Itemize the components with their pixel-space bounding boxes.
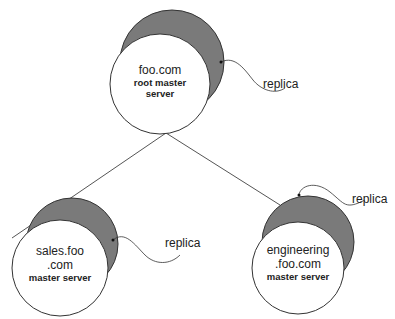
node-label-sales: sales.foo .com master server	[10, 245, 110, 284]
node-name: sales.foo	[10, 245, 110, 259]
node-name: engineering	[248, 244, 348, 258]
replica-label-engineering: replica	[352, 192, 387, 206]
edge-root-engineering	[166, 133, 280, 205]
node-name: .com	[10, 259, 110, 273]
replica-label-root: replica	[263, 77, 298, 91]
node-role: server	[110, 89, 210, 100]
node-role: master server	[248, 272, 348, 283]
node-label-engineering: engineering .foo.com master server	[248, 244, 348, 283]
node-name: foo.com	[110, 64, 210, 78]
node-name: .foo.com	[248, 258, 348, 272]
connector-dot	[298, 194, 301, 197]
node-label-root: foo.com root master server	[110, 64, 210, 100]
connector-dot	[112, 239, 115, 242]
replica-label-sales: replica	[165, 236, 200, 250]
connector-dot	[220, 61, 223, 64]
node-role: master server	[10, 273, 110, 284]
